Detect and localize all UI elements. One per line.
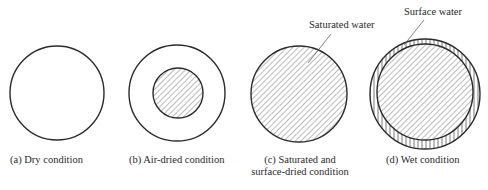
panel-d-wet-particle [370,20,480,149]
caption-d: (d) Wet condition [386,154,476,166]
wet-particle-core-hatch [377,44,473,140]
panel-c-ssd-particle [251,34,347,142]
saturated-water-label: Saturated water [309,19,375,30]
caption-c-line2: surface-dried condition [240,166,360,178]
panel-b-air-dried-particle [129,45,225,141]
caption-b: (b) Air-dried condition [129,154,244,166]
panel-a-dry-particle [10,46,104,140]
dry-particle-circle [10,46,104,140]
surface-water-label: Surface water [404,6,462,17]
caption-c-line1: (c) Saturated and [240,154,360,166]
caption-a: (a) Dry condition [10,154,110,166]
saturated-particle-circle [251,46,347,142]
air-dried-wet-core [153,68,203,118]
